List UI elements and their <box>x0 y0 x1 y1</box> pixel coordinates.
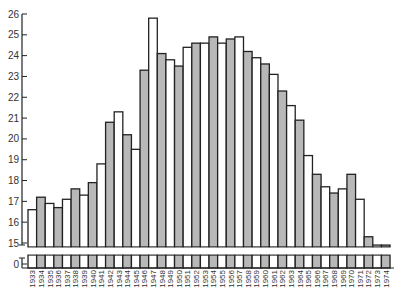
bar-stub-1933 <box>28 255 37 268</box>
bar-stub-1961 <box>269 255 278 268</box>
y-tick-label: 15 <box>8 238 20 249</box>
bar-1950 <box>175 66 184 247</box>
bar-1935 <box>45 203 54 247</box>
bar-chart: 0151617181920212223242526193319341935193… <box>0 0 402 294</box>
x-tick-label: 1974 <box>382 269 391 287</box>
bar-1939 <box>80 195 89 247</box>
y-tick-label: 22 <box>8 92 20 103</box>
bar-stub-1940 <box>88 255 97 268</box>
bar-stub-1952 <box>192 255 201 268</box>
bar-stub-1938 <box>71 255 80 268</box>
bar-1964 <box>295 120 304 247</box>
bar-stub-1960 <box>261 255 270 268</box>
bar-stub-1941 <box>97 255 106 268</box>
bar-stub-1942 <box>106 255 115 268</box>
bar-stub-1971 <box>356 255 365 268</box>
bar-1961 <box>269 74 278 247</box>
bar-stub-1934 <box>37 255 46 268</box>
bar-1936 <box>54 208 63 247</box>
y-tick-label: 26 <box>8 9 20 20</box>
bar-stub-1970 <box>347 255 356 268</box>
bar-stub-1937 <box>62 255 71 268</box>
bar-stub-1965 <box>304 255 313 268</box>
y-tick-label: 0 <box>13 259 19 270</box>
bar-stub-1967 <box>321 255 330 268</box>
bar-1947 <box>149 18 158 247</box>
bar-stub-1949 <box>166 255 175 268</box>
y-tick-label: 20 <box>8 133 20 144</box>
bar-stub-1945 <box>131 255 140 268</box>
y-tick-label: 25 <box>8 29 20 40</box>
bar-stub-1959 <box>252 255 261 268</box>
bar-1938 <box>71 189 80 247</box>
bar-stub-1963 <box>287 255 296 268</box>
bar-stub-1950 <box>175 255 184 268</box>
bar-1968 <box>330 193 339 247</box>
bar-1970 <box>347 174 356 247</box>
bar-1945 <box>131 149 140 247</box>
bar-1954 <box>209 37 218 247</box>
bar-stub-1947 <box>149 255 158 268</box>
bar-stub-1972 <box>364 255 373 268</box>
axis-break-band <box>23 248 402 255</box>
bar-stub-1974 <box>381 255 390 268</box>
bar-stub-1948 <box>157 255 166 268</box>
bar-stub-1946 <box>140 255 149 268</box>
bar-1957 <box>235 37 244 247</box>
bar-stub-1951 <box>183 255 192 268</box>
bar-1969 <box>338 189 347 247</box>
y-tick-label: 16 <box>8 217 20 228</box>
bar-stub-1955 <box>218 255 227 268</box>
bar-1943 <box>114 112 123 247</box>
bar-stub-1957 <box>235 255 244 268</box>
chart-canvas: 0151617181920212223242526193319341935193… <box>0 0 402 294</box>
bar-1965 <box>304 156 313 247</box>
bar-1966 <box>312 174 321 247</box>
bar-1955 <box>218 43 227 247</box>
bar-1940 <box>88 183 97 247</box>
bar-stub-1964 <box>295 255 304 268</box>
bar-1956 <box>226 39 235 247</box>
y-tick-label: 23 <box>8 71 20 82</box>
bar-1949 <box>166 60 175 247</box>
bar-1951 <box>183 47 192 247</box>
bar-1958 <box>244 51 253 247</box>
y-tick-label: 24 <box>8 50 20 61</box>
bar-stub-1973 <box>373 255 382 268</box>
bar-1934 <box>37 197 46 247</box>
y-tick-label: 18 <box>8 175 20 186</box>
bar-stub-1943 <box>114 255 123 268</box>
bar-1959 <box>252 58 261 247</box>
y-tick-label: 19 <box>8 154 20 165</box>
bar-1963 <box>287 106 296 247</box>
bar-1944 <box>123 135 132 247</box>
bar-1971 <box>356 199 365 247</box>
bar-1973 <box>373 245 382 247</box>
bar-stub-1939 <box>80 255 89 268</box>
bar-stub-1962 <box>278 255 287 268</box>
bar-stub-1936 <box>54 255 63 268</box>
y-tick-label: 17 <box>8 196 20 207</box>
bar-stub-1968 <box>330 255 339 268</box>
bar-stub-1935 <box>45 255 54 268</box>
bar-stub-1954 <box>209 255 218 268</box>
bar-1933 <box>28 210 37 247</box>
bar-1953 <box>200 43 209 247</box>
bar-1972 <box>364 237 373 247</box>
bar-stub-1953 <box>200 255 209 268</box>
bar-stub-1969 <box>338 255 347 268</box>
bar-1962 <box>278 91 287 247</box>
bar-stub-1966 <box>312 255 321 268</box>
y-tick-label: 21 <box>8 113 20 124</box>
bar-1946 <box>140 70 149 247</box>
bar-1967 <box>321 187 330 247</box>
bar-1948 <box>157 54 166 247</box>
bar-1960 <box>261 64 270 247</box>
bar-1942 <box>106 122 115 247</box>
bar-1941 <box>97 164 106 247</box>
bar-stub-1958 <box>244 255 253 268</box>
bar-stub-1944 <box>123 255 132 268</box>
bar-1937 <box>62 199 71 247</box>
bar-1974 <box>381 245 390 247</box>
bar-1952 <box>192 43 201 247</box>
